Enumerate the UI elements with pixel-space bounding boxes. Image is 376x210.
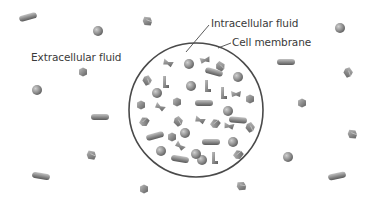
sphere-particle — [223, 106, 233, 116]
sphere-particle — [283, 152, 293, 162]
cell-diagram — [0, 0, 376, 210]
sphere-particle — [184, 59, 194, 69]
rod-particle — [195, 100, 213, 106]
sphere-particle — [335, 23, 345, 33]
sphere-particle — [93, 26, 103, 36]
sphere-particle — [228, 137, 238, 147]
sphere-particle — [191, 149, 201, 159]
background — [0, 0, 376, 210]
intracellular-fluid-label: Intracellular fluid — [211, 17, 298, 29]
sphere-particle — [180, 128, 190, 138]
sphere-particle — [156, 146, 166, 156]
sphere-particle — [32, 85, 42, 95]
rod-particle — [277, 59, 295, 65]
sphere-particle — [233, 72, 243, 82]
sphere-particle — [186, 81, 196, 91]
sphere-particle — [152, 88, 162, 98]
rod-particle — [91, 114, 109, 120]
cell-membrane-label: Cell membrane — [232, 36, 311, 48]
rod-particle — [202, 139, 220, 145]
extracellular-fluid-label: Extracellular fluid — [31, 51, 121, 63]
